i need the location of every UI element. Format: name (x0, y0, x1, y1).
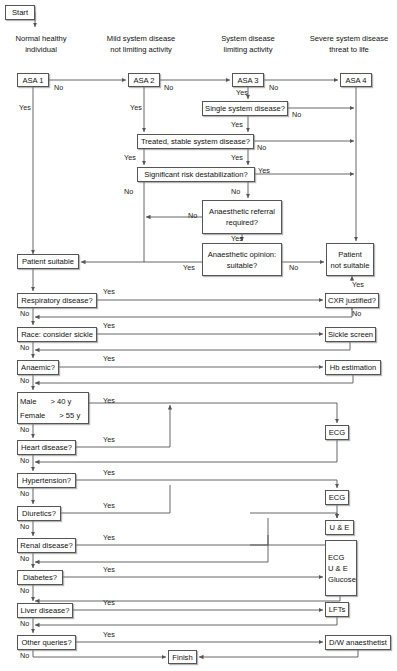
node-start[interactable]: Start (5, 5, 35, 20)
edge-label-no: No (269, 84, 278, 91)
node-asa2[interactable]: ASA 2 (128, 73, 160, 87)
column-header-line: threat to life (303, 44, 395, 55)
node-opinion[interactable]: Anaesthetic opinion:suitable? (202, 243, 282, 276)
node-resp-label: Respiratory disease? (21, 295, 92, 306)
node-referral-line: Anaesthetic referral (209, 206, 275, 217)
node-sickle-label: Sickle screen (328, 329, 373, 340)
node-single-label: Single system disease? (205, 103, 285, 114)
edge-label-yes: Yes (236, 89, 248, 96)
node-ecg1-label: ECG (329, 427, 345, 438)
edge-ecg1-no (35, 440, 337, 462)
column-header-line: not limiting activity (98, 44, 184, 55)
node-diabpanel[interactable]: ECGU & EGlucose (325, 540, 357, 596)
edge-label-yes: Yes (231, 235, 243, 242)
edge-sickle-no (35, 342, 350, 350)
edge-label-yes: Yes (130, 104, 142, 111)
node-notsuitable[interactable]: Patientnot suitable (326, 243, 374, 276)
edge-label-no: No (188, 212, 197, 219)
edge-label-no: No (231, 188, 240, 195)
edge-label-no: No (20, 587, 29, 594)
node-opinion-line: Anaesthetic opinion: (208, 249, 276, 260)
edge-other-no (33, 650, 166, 657)
edge-hb-no (35, 375, 353, 383)
node-asa1-label: ASA 1 (22, 75, 43, 86)
node-asa4[interactable]: ASA 4 (340, 73, 372, 87)
edge-age-yes (89, 403, 337, 423)
node-hb-label: Hb estimation (330, 362, 376, 373)
edge-cxr-no (35, 308, 352, 317)
node-diabpanel-line: Glucose (328, 574, 356, 585)
node-notsuitable-line: not suitable (331, 260, 370, 271)
edge-lfts-no (35, 617, 337, 625)
edge-label-yes: Yes (103, 631, 115, 638)
node-age-key: Female (20, 410, 45, 421)
edge-label-no: No (292, 111, 301, 118)
node-asa4-label: ASA 4 (345, 75, 366, 86)
node-diabpanel-line: ECG (328, 552, 344, 563)
node-hb[interactable]: Hb estimation (325, 360, 381, 375)
column-header-line: System disease (212, 33, 284, 44)
node-referral[interactable]: Anaesthetic referralrequired? (202, 200, 282, 234)
node-other[interactable]: Other queries? (17, 635, 76, 650)
edge-label-yes: Yes (103, 397, 115, 404)
node-hyper-label: Hypertension? (22, 475, 71, 486)
edge-diur-yes (61, 485, 170, 513)
node-resp[interactable]: Respiratory disease? (17, 293, 97, 308)
node-diuretics[interactable]: Diuretics? (17, 506, 61, 521)
node-race[interactable]: Race: consider sickle (17, 327, 97, 342)
node-ecg2-label: ECG (329, 492, 345, 503)
edge-label-yes: Yes (103, 322, 115, 329)
node-diabpanel-line: U & E (328, 563, 348, 574)
node-notsuitable-line: Patient (338, 249, 362, 260)
node-treated[interactable]: Treated, stable system disease? (137, 134, 254, 149)
node-anaemic[interactable]: Anaemic? (17, 360, 59, 375)
node-ue[interactable]: U & E (325, 520, 354, 535)
edge-label-yes: Yes (231, 121, 243, 128)
edge-label-no: No (20, 310, 29, 317)
edge-label-yes: Yes (352, 281, 364, 288)
node-hyper[interactable]: Hypertension? (17, 473, 76, 488)
node-asa1[interactable]: ASA 1 (17, 73, 49, 87)
node-anaemic-label: Anaemic? (21, 362, 55, 373)
edge-label-no: No (20, 620, 29, 627)
node-treated-label: Treated, stable system disease? (141, 136, 250, 147)
node-signif[interactable]: Significant risk destabilization? (137, 167, 255, 182)
node-heart[interactable]: Heart disease? (17, 440, 76, 455)
node-ecg2[interactable]: ECG (325, 490, 349, 505)
edge-label-no: No (20, 377, 29, 384)
node-age-value: > 40 y (50, 396, 71, 407)
node-liver-label: Liver disease? (21, 605, 70, 616)
edge-label-yes: Yes (103, 355, 115, 362)
node-lfts[interactable]: LFTs (325, 602, 349, 617)
edge-label-yes: Yes (103, 436, 115, 443)
node-heart-label: Heart disease? (21, 442, 72, 453)
edge-label-no: No (352, 310, 361, 317)
edge-label-no: No (20, 426, 29, 433)
node-asa3[interactable]: ASA 3 (232, 73, 264, 87)
node-other-label: Other queries? (21, 637, 71, 648)
node-age[interactable]: Male> 40 yFemale> 55 y (17, 392, 89, 424)
edge-label-no: No (20, 652, 29, 659)
node-single[interactable]: Single system disease? (202, 101, 288, 116)
node-age-row: Female> 55 y (20, 410, 86, 421)
node-ecg1[interactable]: ECG (325, 425, 349, 440)
edge-label-no: No (20, 457, 29, 464)
column-header-line: Mild system disease (98, 33, 184, 44)
edge-diabp-no (35, 596, 340, 601)
node-ue-label: U & E (330, 522, 350, 533)
node-diabetes[interactable]: Diabetes? (17, 570, 63, 585)
node-cxr[interactable]: CXR justified? (325, 293, 379, 308)
node-renal[interactable]: Renal disease? (17, 538, 76, 553)
edge-label-yes: Yes (103, 502, 115, 509)
node-liver[interactable]: Liver disease? (17, 603, 73, 618)
edge-diur-ue (250, 513, 337, 518)
node-dw[interactable]: D/W anaesthetist (325, 635, 391, 650)
node-finish[interactable]: Finish (168, 650, 197, 664)
node-opinion-line: suitable? (227, 260, 257, 271)
node-sickle[interactable]: Sickle screen (325, 327, 376, 342)
node-suitable[interactable]: Patient suitable (17, 254, 79, 269)
node-asa3-label: ASA 3 (237, 75, 258, 86)
node-age-value: > 55 y (59, 410, 80, 421)
column-header-h1: Normal healthyindividual (5, 33, 77, 56)
edge-label-no: No (124, 188, 133, 195)
